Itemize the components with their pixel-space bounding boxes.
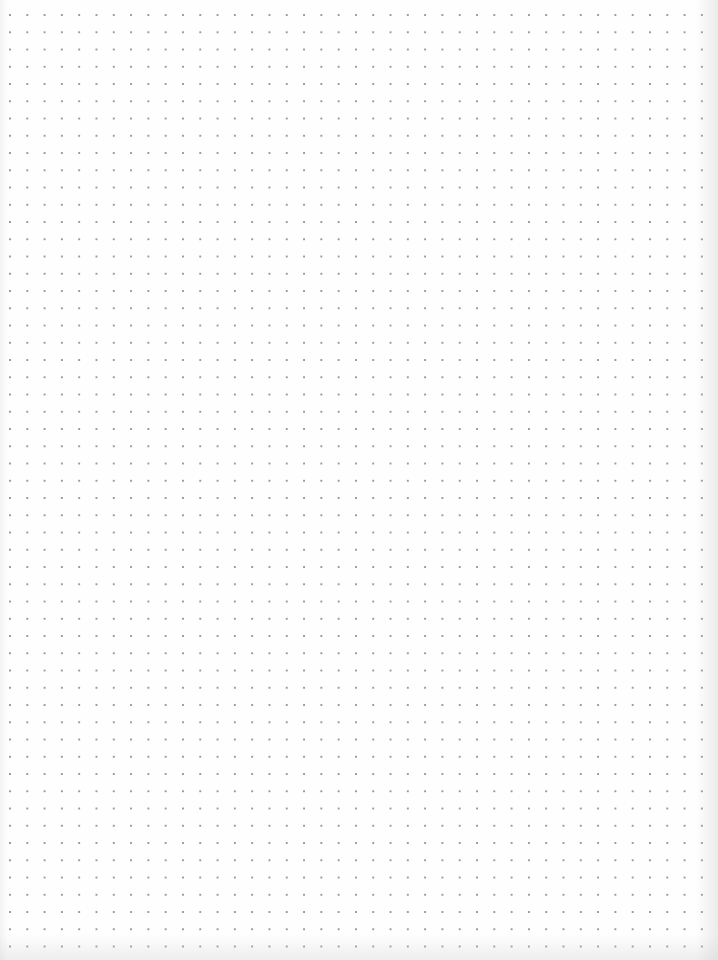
dot-grid-page — [0, 0, 718, 960]
dot-grid-pattern — [0, 0, 718, 960]
